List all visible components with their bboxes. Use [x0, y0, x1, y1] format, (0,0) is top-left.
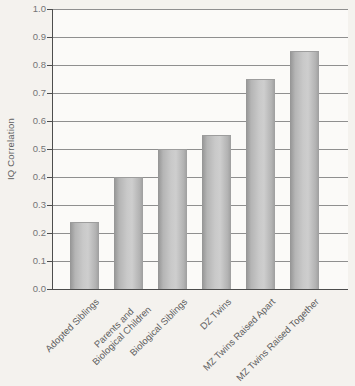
gridline-0.9	[52, 37, 348, 38]
y-tick-label: 0.8	[18, 60, 46, 70]
gridline-1.0	[52, 9, 348, 10]
bar-6	[290, 51, 319, 289]
y-tick-label: 1.0	[18, 4, 46, 14]
y-axis-line	[52, 9, 53, 290]
y-tick-label: 0.6	[18, 116, 46, 126]
bar-1	[70, 222, 99, 289]
y-tick-label: 0.3	[18, 200, 46, 210]
category-label: DZ Twins	[198, 296, 234, 332]
y-axis-title: IQ Correlation	[5, 89, 17, 209]
iq-correlation-bar-chart: IQ Correlation 1.00.90.80.70.60.50.40.30…	[0, 0, 355, 386]
y-tick-label: 0.1	[18, 256, 46, 266]
y-tick-label: 0.4	[18, 172, 46, 182]
x-axis-line	[52, 289, 348, 290]
y-tick-label: 0.5	[18, 144, 46, 154]
bar-4	[202, 135, 231, 289]
y-tick-label: 0.7	[18, 88, 46, 98]
y-tick-label: 0.0	[18, 284, 46, 294]
y-tick-label: 0.9	[18, 32, 46, 42]
bar-2	[114, 177, 143, 289]
y-tick-label: 0.2	[18, 228, 46, 238]
bar-5	[246, 79, 275, 289]
category-label: MZ Twins Raised Together	[234, 296, 321, 383]
bar-3	[158, 149, 187, 289]
